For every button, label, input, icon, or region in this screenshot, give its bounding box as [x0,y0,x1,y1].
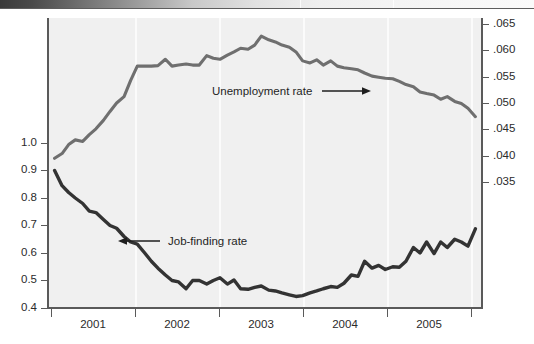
x-label-2003: 2003 [231,318,291,330]
y-label-left-7: 0.4 [3,301,37,313]
y-tick-right-6 [481,156,489,157]
x-tick-0 [51,309,52,317]
x-label-2002: 2002 [147,318,207,330]
y-label-right-3: .055 [493,70,515,82]
y-tick-left-6 [41,280,49,281]
y-tick-left-2 [41,170,49,171]
y-label-left-5: 0.6 [3,246,37,258]
y-tick-left-5 [41,253,49,254]
x-tick-2 [219,309,220,317]
annotation-unemployment-rate: Unemployment rate [212,85,312,97]
y-label-left-2: 0.9 [3,163,37,175]
y-tick-right-5 [481,129,489,130]
y-tick-right-4 [481,103,489,104]
chart-figure: 1.0 0.9 0.8 0.7 0.6 0.5 0.4 .065 .060 .0… [0,0,534,344]
y-tick-right-3 [481,77,489,78]
y-tick-right-7 [481,182,489,183]
y-tick-left-3 [41,198,49,199]
x-axis [48,307,483,309]
x-label-2005: 2005 [399,318,459,330]
y-label-right-5: .045 [493,122,515,134]
series-line-job-finding-rate [55,171,476,297]
x-tick-3 [303,309,304,317]
y-tick-right-1 [481,24,489,25]
y-tick-right-2 [481,50,489,51]
x-tick-5 [471,309,472,317]
data-curves [0,0,534,344]
y-axis-left [47,18,49,309]
y-label-left-4: 0.7 [3,218,37,230]
annotation-job-finding-rate: Job-finding rate [168,235,247,247]
y-label-left-3: 0.8 [3,191,37,203]
x-tick-1 [135,309,136,317]
x-label-2004: 2004 [315,318,375,330]
y-label-right-2: .060 [493,43,515,55]
y-tick-left-1 [41,143,49,144]
y-axis-right [481,18,483,309]
x-tick-4 [387,309,388,317]
y-tick-left-4 [41,225,49,226]
y-label-right-7: .035 [493,175,515,187]
y-label-right-1: .065 [493,17,515,29]
series-line-unemployment-rate [55,36,476,158]
y-tick-left-7 [41,308,49,309]
x-label-2001: 2001 [63,318,123,330]
y-label-left-1: 1.0 [3,136,37,148]
y-label-right-4: .050 [493,96,515,108]
y-label-left-6: 0.5 [3,273,37,285]
y-label-right-6: .040 [493,149,515,161]
